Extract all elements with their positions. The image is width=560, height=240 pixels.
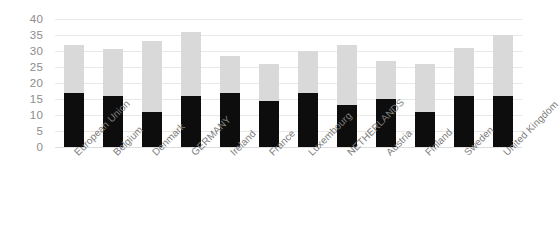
bar-slot <box>250 19 289 147</box>
bar-slot <box>289 19 328 147</box>
bar-segment-upper <box>142 41 162 111</box>
y-tick-label-15: 15 <box>30 93 43 105</box>
bar-segment-upper <box>259 64 279 101</box>
bar-segment-upper <box>103 49 123 95</box>
bar-finland <box>415 64 435 147</box>
y-axis: 4035302520151050 <box>0 0 52 147</box>
bar-segment-lower <box>298 93 318 147</box>
y-tick-label-40: 40 <box>30 13 43 25</box>
bar-ireland <box>220 56 240 147</box>
y-tick-label-30: 30 <box>30 45 43 57</box>
bar-slot <box>55 19 94 147</box>
bar-slot <box>405 19 444 147</box>
x-axis-labels: European UnionBelgiumDenmarkGERMANYIrela… <box>55 150 522 240</box>
bar-segment-upper <box>376 61 396 99</box>
y-tick-label-10: 10 <box>30 109 43 121</box>
y-tick-label-25: 25 <box>30 61 43 73</box>
y-tick-label-0: 0 <box>36 141 43 153</box>
bar-european-union <box>64 45 84 147</box>
bar-segment-upper <box>454 48 474 96</box>
bar-segment-upper <box>181 32 201 96</box>
y-tick-label-20: 20 <box>30 77 43 89</box>
bar-segment-upper <box>337 45 357 106</box>
bar-segment-upper <box>220 56 240 93</box>
bar-segment-lower <box>493 96 513 147</box>
bar-segment-lower <box>454 96 474 147</box>
bar-belgium <box>103 49 123 147</box>
bar-united-kingdom <box>493 35 513 147</box>
bar-segment-upper <box>493 35 513 96</box>
y-tick-label-5: 5 <box>36 125 43 137</box>
bar-segment-upper <box>298 51 318 93</box>
bar-slot <box>444 19 483 147</box>
bar-sweden <box>454 48 474 147</box>
bar-denmark <box>142 41 162 147</box>
bar-france <box>259 64 279 147</box>
bar-luxembourg <box>298 51 318 147</box>
bar-segment-upper <box>64 45 84 93</box>
bar-segment-upper <box>415 64 435 112</box>
y-tick-label-35: 35 <box>30 29 43 41</box>
